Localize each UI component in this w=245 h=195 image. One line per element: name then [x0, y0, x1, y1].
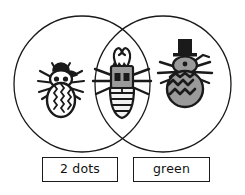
top-hat	[178, 39, 192, 54]
bug-eye-dot	[183, 62, 188, 67]
bug-dot	[63, 76, 68, 81]
bug-two-dots-white	[38, 63, 84, 117]
bug-green-top-hat	[158, 39, 212, 107]
venn-diagram-worksheet: 2 dots green	[0, 0, 245, 195]
venn-label-left: 2 dots	[60, 163, 100, 176]
venn-label-box-left: 2 dots	[42, 157, 118, 182]
venn-label-right: green	[153, 163, 190, 176]
bug-dot	[124, 73, 130, 81]
bug-two-dots-green	[93, 48, 151, 118]
bug-dot	[54, 76, 59, 81]
venn-label-box-right: green	[133, 157, 210, 182]
bug-dot	[115, 73, 121, 81]
